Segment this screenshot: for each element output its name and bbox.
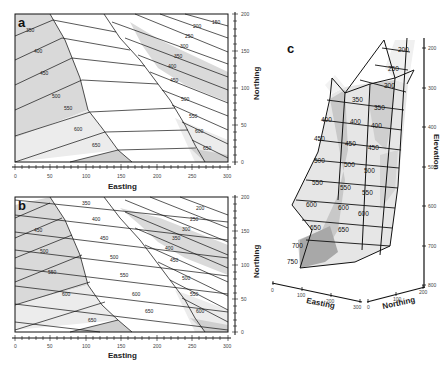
contour-label: 400 [165, 245, 174, 251]
contour-label: 500 [40, 248, 49, 254]
contour-label: 300 [182, 226, 191, 232]
contour-label: 400 [321, 116, 332, 123]
contour-label: 500 [181, 96, 190, 102]
contour-label: 450 [100, 235, 109, 241]
y-axis: 0 50 100 150 200 Northing [232, 11, 261, 165]
contour-label: 350 [172, 235, 181, 241]
z-tick-label: 400 [428, 124, 437, 130]
northing-axis-3d: 0 100 200 Northing [367, 285, 428, 311]
z-tick-label: 200 [428, 45, 437, 51]
contour-label: 550 [48, 269, 57, 275]
z-tick-label: 300 [428, 85, 437, 91]
y-tick-label: 0 [241, 329, 244, 335]
contour-label: 550 [340, 184, 351, 191]
panel-letter: c [287, 41, 294, 56]
contour-label: 200 [193, 23, 202, 29]
y-tick-label: 100 [241, 85, 250, 91]
x-tick-label: 50 [47, 173, 53, 179]
panel-c: c [271, 38, 441, 311]
contour-label: 700 [292, 242, 303, 249]
contour-label: 600 [195, 128, 204, 134]
contour-label: 450 [170, 77, 179, 83]
z-axis-title: Elevation [432, 134, 441, 170]
z-axis: 200 300 400 500 600 700 800 Elevation [422, 38, 441, 288]
x-axis: 0 50 100 150 200 250 300 Easting [12, 335, 232, 360]
contour-label: 400 [168, 63, 177, 69]
contour-label: 350 [26, 27, 35, 33]
x-tick-label: 150 [117, 343, 126, 349]
y-tick-label: 200 [419, 289, 428, 295]
x-tick-label: 300 [353, 304, 362, 310]
contour-label: 500 [52, 93, 61, 99]
contour-label: 750 [287, 258, 298, 265]
panel-a: 350 400 450 500 550 600 650 150 200 250 … [12, 11, 261, 191]
x-tick-label: 200 [153, 173, 162, 179]
contour-label: 550 [362, 189, 373, 196]
contour-label: 400 [350, 118, 361, 125]
contour-label: 650 [88, 317, 97, 323]
contour-label: 550 [64, 105, 73, 111]
contour-label: 250 [388, 65, 399, 72]
y-tick-label: 0 [241, 159, 244, 165]
contour-label: 450 [170, 257, 179, 263]
x-axis-title: Easting [108, 351, 137, 360]
y-tick-label: 50 [241, 122, 247, 128]
contour-label: 300 [384, 82, 395, 89]
contour-label: 500 [364, 167, 375, 174]
contour-label: 450 [345, 140, 356, 147]
x-tick-label: 0 [14, 173, 17, 179]
contour-label: 600 [62, 291, 71, 297]
contour-label: 650 [310, 224, 321, 231]
y-tick-label: 50 [241, 296, 247, 302]
panel-letter: b [18, 198, 26, 213]
contour-label: 400 [34, 48, 43, 54]
contour-label: 600 [74, 126, 83, 132]
contour-label: 600 [132, 291, 141, 297]
contour-label: 650 [145, 308, 154, 314]
x-tick-label: 250 [188, 173, 197, 179]
x-axis: 0 50 100 150 200 250 300 Easting [12, 164, 232, 191]
z-tick-label: 700 [428, 243, 437, 249]
contour-label: 500 [182, 275, 191, 281]
contour-label: 450 [40, 70, 49, 76]
x-tick-label: 200 [153, 343, 162, 349]
contour-label: 350 [82, 200, 91, 206]
x-tick-label: 300 [223, 173, 232, 179]
panel-letter: a [18, 15, 26, 30]
contour-label: 550 [120, 272, 129, 278]
contour-label: 150 [212, 19, 221, 25]
x-tick-label: 0 [14, 343, 17, 349]
panel-b: 350 400 450 500 550 600 650 450 500 550 … [12, 194, 261, 360]
contour-label: 600 [196, 308, 205, 314]
contour-label: 300 [180, 43, 189, 49]
y-axis-title: Northing [382, 295, 417, 311]
z-tick-label: 600 [428, 203, 437, 209]
y-axis: 0 50 100 150 200 Northing [232, 194, 261, 335]
contour-label: 350 [352, 96, 363, 103]
contour-label: 600 [306, 201, 317, 208]
y-tick-label: 0 [367, 304, 370, 310]
y-axis-title: Northing [252, 245, 261, 278]
y-tick-label: 200 [241, 11, 250, 17]
x-tick-label: 50 [47, 343, 53, 349]
contour-label: 450 [368, 144, 379, 151]
contour-label: 550 [190, 291, 199, 297]
easting-axis-3d: 0 100 200 300 Easting [271, 281, 362, 310]
contour-label: 650 [338, 226, 349, 233]
x-tick-label: 0 [271, 287, 274, 293]
contour-label: 250 [185, 33, 194, 39]
contour-label: 200 [196, 205, 205, 211]
x-tick-label: 100 [82, 173, 91, 179]
x-tick-label: 100 [297, 292, 306, 298]
contour-label: 400 [92, 216, 101, 222]
contour-label: 200 [398, 46, 409, 53]
contour-label: 650 [203, 145, 212, 151]
y-tick-label: 150 [241, 48, 250, 54]
y-tick-label: 200 [241, 194, 250, 200]
contour-label: 400 [371, 122, 382, 129]
contour-label: 250 [190, 216, 199, 222]
contour-label: 500 [110, 254, 119, 260]
contour-label: 550 [312, 179, 323, 186]
contour-label: 450 [34, 227, 43, 233]
contour-label: 500 [344, 161, 355, 168]
